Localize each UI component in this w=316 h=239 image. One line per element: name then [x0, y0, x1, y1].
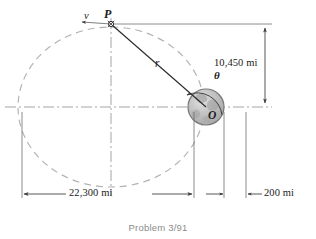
point-p-label: P — [104, 8, 111, 20]
velocity-vector — [82, 22, 111, 24]
center-o-label: O — [208, 110, 216, 122]
dimension-label-22300: 22,300 mi — [69, 188, 113, 199]
radius-label: r — [155, 58, 159, 70]
orbit-diagram-figure: P v r θ O 10,450 mi 22,300 mi 200 mi Pro… — [0, 0, 316, 239]
velocity-label: v — [84, 11, 89, 22]
diagram-canvas — [0, 0, 316, 239]
dimension-label-10450: 10,450 mi — [214, 58, 258, 69]
dimension-label-200: 200 mi — [264, 188, 294, 199]
theta-label: θ — [214, 70, 220, 81]
figure-caption: Problem 3/91 — [0, 222, 316, 233]
